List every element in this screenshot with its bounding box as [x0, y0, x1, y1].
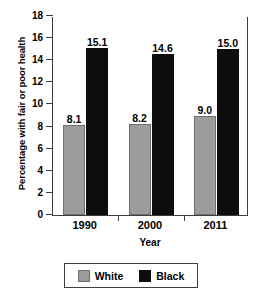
bar-black-2011: 15.0	[217, 49, 239, 215]
y-axis-tick-label: 4	[37, 164, 43, 177]
legend-label: White	[95, 270, 124, 282]
x-axis-category-label: 1990	[60, 219, 110, 231]
y-axis-title: Percentage with fair or poor health	[16, 14, 27, 214]
legend-item-black: Black	[139, 270, 184, 282]
y-axis-tick-label: 2	[37, 186, 43, 199]
x-axis-tick	[118, 215, 119, 221]
legend-swatch-white	[78, 270, 90, 282]
x-axis-category-label: 2011	[190, 219, 240, 231]
y-axis-tick-label: 14	[32, 53, 43, 66]
x-axis-category-label: 2000	[125, 219, 175, 231]
bar-value-label: 15.1	[87, 36, 107, 48]
x-axis-title: Year	[52, 237, 248, 248]
y-axis-tick: 10	[46, 103, 53, 104]
bar-chart: Percentage with fair or poor health 0246…	[0, 0, 263, 296]
y-axis-tick-label: 10	[32, 97, 43, 110]
plot-area: 0246810121416188.115.18.214.69.015.0	[52, 17, 248, 216]
bar-white-1990: 8.1	[63, 125, 85, 215]
chart-legend: WhiteBlack	[64, 263, 198, 288]
x-axis-tick	[184, 215, 185, 221]
y-axis-tick: 18	[46, 15, 53, 16]
legend-swatch-black	[139, 270, 151, 282]
y-axis-tick: 12	[46, 81, 53, 82]
bar-value-label: 8.1	[67, 113, 82, 125]
y-axis-tick-label: 18	[32, 9, 43, 22]
y-axis-tick: 16	[46, 37, 53, 38]
legend-item-white: White	[78, 270, 124, 282]
y-axis-tick-label: 8	[37, 120, 43, 133]
bar-value-label: 15.0	[218, 37, 238, 49]
y-axis-tick-label: 0	[37, 208, 43, 221]
bar-black-1990: 15.1	[86, 48, 108, 215]
bar-black-2000: 14.6	[152, 54, 174, 215]
bar-value-label: 14.6	[152, 42, 172, 54]
bar-value-label: 9.0	[198, 104, 213, 116]
y-axis-tick-label: 16	[32, 31, 43, 44]
bar-value-label: 8.2	[132, 112, 147, 124]
bar-white-2000: 8.2	[129, 124, 151, 215]
y-axis-tick-label: 6	[37, 142, 43, 155]
y-axis-tick: 0	[46, 214, 53, 215]
legend-label: Black	[156, 270, 184, 282]
y-axis-tick-label: 12	[32, 75, 43, 88]
y-axis-tick: 2	[46, 192, 53, 193]
y-axis-tick: 6	[46, 148, 53, 149]
y-axis-tick: 4	[46, 170, 53, 171]
y-axis-tick: 8	[46, 126, 53, 127]
y-axis-tick: 14	[46, 59, 53, 60]
bar-white-2011: 9.0	[194, 116, 216, 216]
